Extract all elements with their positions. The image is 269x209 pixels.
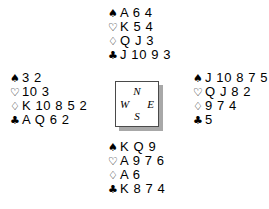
hand-north-clubs: J 10 9 3 (120, 48, 171, 62)
hand-north-spades: A 6 4 (120, 6, 153, 20)
hand-south-clubs-row: ♣ K 8 7 4 (108, 182, 165, 196)
club-suit-icon: ♣ (108, 49, 120, 63)
hand-west-clubs-row: ♣ A Q 6 2 (10, 113, 87, 127)
hand-north-spades-row: ♠ A 6 4 (108, 6, 171, 20)
hand-north-diamonds: Q J 3 (120, 34, 154, 48)
hand-north-hearts: K 5 4 (120, 20, 153, 34)
hand-west-spades: 3 2 (22, 71, 42, 85)
hand-east: ♠ J 10 8 7 5 ♡ Q J 8 2 ♢ 9 7 4 ♣ 5 (193, 71, 268, 127)
compass-label-west: W (120, 99, 129, 110)
compass-label-north: N (116, 86, 158, 97)
compass-box: N W E S (115, 81, 159, 127)
compass-label-south: S (116, 111, 158, 122)
hand-east-hearts: Q J 8 2 (205, 85, 251, 99)
hand-south-spades: K Q 9 (120, 140, 156, 154)
hand-east-spades: J 10 8 7 5 (205, 71, 268, 85)
hand-south-hearts: A 9 7 6 (120, 154, 165, 168)
compass-box-frame: N W E S (115, 81, 159, 127)
heart-suit-icon: ♡ (108, 155, 120, 169)
hand-south-hearts-row: ♡ A 9 7 6 (108, 154, 165, 168)
hand-west-spades-row: ♠ 3 2 (10, 71, 87, 85)
hand-north-hearts-row: ♡ K 5 4 (108, 20, 171, 34)
hand-east-hearts-row: ♡ Q J 8 2 (193, 85, 268, 99)
hand-north-clubs-row: ♣ J 10 9 3 (108, 48, 171, 62)
diamond-suit-icon: ♢ (108, 169, 120, 183)
heart-suit-icon: ♡ (193, 86, 205, 100)
hand-east-clubs: 5 (205, 113, 213, 127)
hand-west-hearts: 10 3 (22, 85, 50, 99)
hand-west-diamonds: K 10 8 5 2 (22, 99, 87, 113)
hand-south-diamonds: A 6 (120, 168, 141, 182)
hand-east-diamonds: 9 7 4 (205, 99, 237, 113)
diamond-suit-icon: ♢ (10, 100, 22, 114)
heart-suit-icon: ♡ (10, 86, 22, 100)
club-suit-icon: ♣ (10, 114, 22, 128)
hand-west-clubs: A Q 6 2 (22, 113, 70, 127)
hand-west-hearts-row: ♡ 10 3 (10, 85, 87, 99)
hand-west: ♠ 3 2 ♡ 10 3 ♢ K 10 8 5 2 ♣ A Q 6 2 (10, 71, 87, 127)
club-suit-icon: ♣ (193, 114, 205, 128)
spade-suit-icon: ♠ (193, 72, 205, 86)
hand-north: ♠ A 6 4 ♡ K 5 4 ♢ Q J 3 ♣ J 10 9 3 (108, 6, 171, 62)
heart-suit-icon: ♡ (108, 21, 120, 35)
hand-south-clubs: K 8 7 4 (120, 182, 165, 196)
hand-south-spades-row: ♠ K Q 9 (108, 140, 165, 154)
spade-suit-icon: ♠ (108, 141, 120, 155)
hand-south-diamonds-row: ♢ A 6 (108, 168, 165, 182)
hand-east-clubs-row: ♣ 5 (193, 113, 268, 127)
diamond-suit-icon: ♢ (108, 35, 120, 49)
hand-north-diamonds-row: ♢ Q J 3 (108, 34, 171, 48)
compass-label-east: E (147, 99, 154, 110)
hand-east-diamonds-row: ♢ 9 7 4 (193, 99, 268, 113)
bridge-deal-diagram: ♠ A 6 4 ♡ K 5 4 ♢ Q J 3 ♣ J 10 9 3 ♠ 3 2… (0, 0, 269, 209)
club-suit-icon: ♣ (108, 183, 120, 197)
hand-south: ♠ K Q 9 ♡ A 9 7 6 ♢ A 6 ♣ K 8 7 4 (108, 140, 165, 196)
hand-west-diamonds-row: ♢ K 10 8 5 2 (10, 99, 87, 113)
hand-east-spades-row: ♠ J 10 8 7 5 (193, 71, 268, 85)
spade-suit-icon: ♠ (10, 72, 22, 86)
spade-suit-icon: ♠ (108, 7, 120, 21)
diamond-suit-icon: ♢ (193, 100, 205, 114)
